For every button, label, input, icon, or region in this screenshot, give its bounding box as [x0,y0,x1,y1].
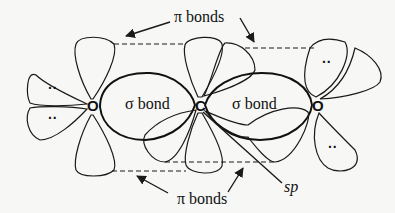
left-o-p-orbital-bottom [75,115,114,176]
pi-arrow-top-left [126,22,170,36]
lone-pair-right-lower: ·· [328,139,337,155]
pi-bonds-label-bottom: π bonds [177,190,227,207]
co2-orbital-diagram: π bonds π bonds σ bond σ bond sp O C O ·… [0,0,395,213]
atom-right-oxygen: O [312,97,324,114]
pi-arrow-bottom-right [228,168,243,192]
left-o-p-orbital-top [75,37,115,99]
carbon-p-orbital-top-tilted [204,43,255,96]
sp-pointer-line [203,112,282,183]
sigma-bond-label-left: σ bond [125,95,170,112]
sigma-bond-label-right: σ bond [232,95,277,112]
sp-label: sp [284,178,298,196]
lone-pair-left-lower: ·· [48,110,57,126]
lone-pair-right-upper: ·· [322,54,331,70]
carbon-p-orbital-bottom [185,113,222,173]
lone-pair-left-upper: ·· [48,80,57,96]
pi-bonds-label-top: π bonds [174,8,224,25]
carbon-sp-lobe-right [205,108,309,162]
pi-arrow-bottom-left [137,176,168,193]
pi-arrow-top-right [240,18,254,42]
atom-left-oxygen: O [87,97,99,114]
atom-carbon: C [195,97,206,114]
